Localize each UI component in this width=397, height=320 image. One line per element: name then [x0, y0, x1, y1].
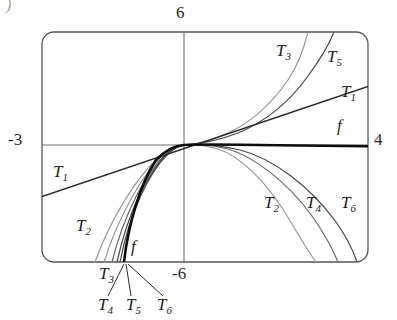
- label-T5-bottom-subscript: 5: [135, 304, 141, 316]
- label-T6-right-subscript: 6: [350, 202, 356, 214]
- label-T3-bottom: T3: [99, 265, 114, 282]
- label-T3-bottom-subscript: 3: [108, 273, 114, 285]
- label-T1-left-subscript: 1: [62, 171, 68, 183]
- label-T2-right: T2: [264, 194, 279, 211]
- label-f-right: f: [337, 117, 342, 134]
- label-T5-top-subscript: 5: [336, 56, 342, 68]
- label-T1-left: T1: [53, 163, 68, 180]
- label-T3-top: T3: [276, 42, 291, 59]
- leader-line-T5: [126, 264, 131, 296]
- label-T4-bottom: T4: [98, 296, 113, 313]
- label-T2-right-subscript: 2: [273, 202, 279, 214]
- label-T1-right: T1: [341, 83, 356, 100]
- label-T3-top-subscript: 3: [285, 50, 291, 62]
- leader-line-T6: [128, 264, 163, 296]
- label-T6-bottom-subscript: 6: [166, 304, 172, 316]
- label-T6-right: T6: [341, 194, 356, 211]
- leader-lines: [108, 264, 163, 296]
- x-axis-tick-right: 4: [374, 131, 383, 148]
- y-axis-tick-bottom: -6: [172, 265, 186, 282]
- label-T1-right-subscript: 1: [350, 91, 356, 103]
- label-T6-bottom: T6: [157, 296, 172, 313]
- taylor-polynomial-figure: ): [0, 0, 397, 320]
- label-T4-bottom-subscript: 4: [107, 304, 113, 316]
- y-axis-tick-top: 6: [176, 4, 185, 21]
- label-T2-left-subscript: 2: [85, 225, 91, 237]
- label-T2-left: T2: [76, 217, 91, 234]
- x-axis-tick-left: -3: [8, 131, 22, 148]
- label-T5-bottom: T5: [126, 296, 141, 313]
- label-T4-right: T4: [306, 194, 321, 211]
- label-T5-top: T5: [327, 48, 342, 65]
- label-f-bottom: f: [131, 238, 136, 255]
- label-T4-right-subscript: 4: [315, 202, 321, 214]
